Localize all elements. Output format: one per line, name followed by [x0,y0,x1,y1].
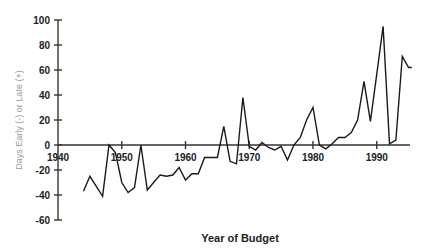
series-layer [83,26,411,196]
series-line [84,26,412,196]
y-tick-label: 100 [33,15,50,26]
y-tick-label: -60 [36,215,51,226]
x-tick-label: 1980 [302,152,325,163]
x-tick-label: 1970 [238,152,261,163]
line-chart: -60-40-20020406080100 194019501960197019… [0,0,427,250]
y-tick-label: 40 [39,90,51,101]
x-axis-label: Year of Budget [201,232,279,244]
x-tick-label: 1950 [111,152,134,163]
y-axis: -60-40-20020406080100 [33,15,62,226]
y-tick-label: -40 [36,190,51,201]
y-tick-label: 60 [39,65,51,76]
y-tick-label: 0 [44,140,50,151]
y-tick-label: 80 [39,40,51,51]
x-tick-label: 1960 [174,152,197,163]
y-tick-label: 20 [39,115,51,126]
x-tick-label: 1990 [366,152,389,163]
y-tick-label: -20 [36,165,51,176]
y-axis-label: Days Early (-) or Late (+) [14,70,24,169]
x-tick-label: 1940 [47,152,70,163]
